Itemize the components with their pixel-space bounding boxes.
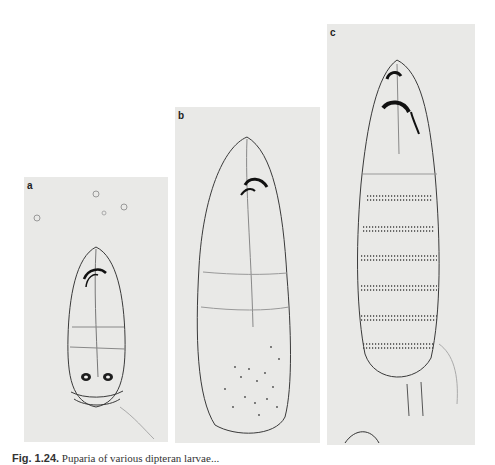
figure-number: Fig. 1.24. xyxy=(12,452,59,464)
figure-panel-b: b xyxy=(175,107,320,443)
figure-caption-text: Puparia of various dipteran larvae... xyxy=(62,452,219,464)
figure-panel-c: c xyxy=(327,24,475,445)
larva-b-illustration xyxy=(175,107,320,443)
larva-c-illustration xyxy=(327,24,475,445)
larva-a-illustration xyxy=(24,177,168,442)
figure-caption: Fig. 1.24. Puparia of various dipteran l… xyxy=(12,452,219,464)
figure-panel-a: a xyxy=(24,177,168,442)
